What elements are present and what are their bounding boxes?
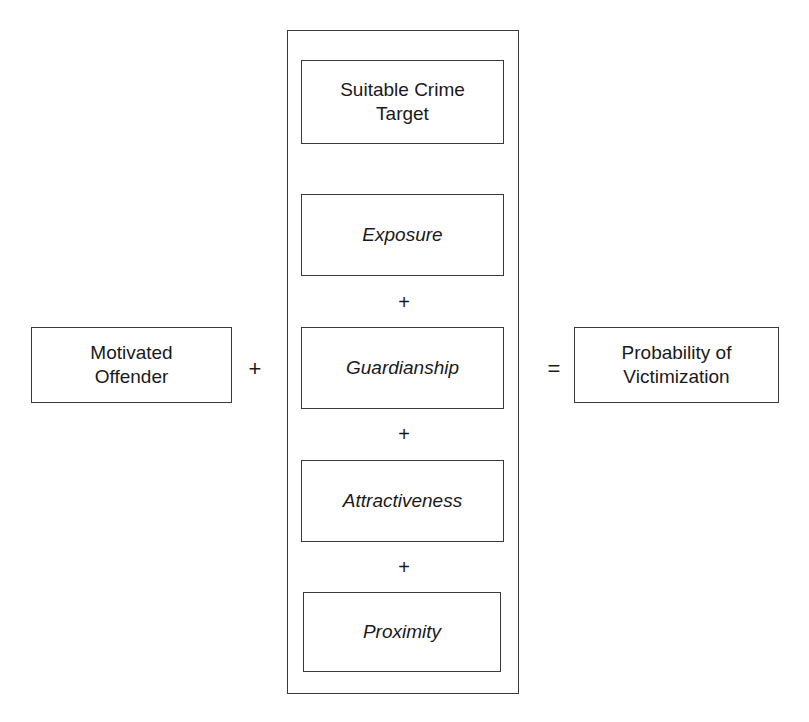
probability-of-victimization-label: Probability of Victimization	[616, 341, 738, 390]
proximity-box: Proximity	[303, 592, 501, 672]
plus-operator-exposure-guardianship: +	[392, 292, 416, 312]
equals-operator: =	[543, 358, 565, 380]
guardianship-box: Guardianship	[301, 327, 504, 409]
proximity-label: Proximity	[357, 620, 447, 644]
motivated-offender-box: Motivated Offender	[31, 327, 232, 403]
suitable-crime-target-box: Suitable Crime Target	[301, 60, 504, 144]
exposure-label: Exposure	[356, 223, 448, 247]
plus-operator-attractiveness-proximity: +	[392, 557, 416, 577]
exposure-box: Exposure	[301, 194, 504, 276]
motivated-offender-label: Motivated Offender	[84, 341, 178, 390]
suitable-crime-target-label: Suitable Crime Target	[334, 78, 471, 127]
diagram-canvas: Motivated Offender + Suitable Crime Targ…	[0, 0, 809, 722]
attractiveness-label: Attractiveness	[337, 489, 468, 513]
plus-operator-guardianship-attractiveness: +	[392, 424, 416, 444]
attractiveness-box: Attractiveness	[301, 460, 504, 542]
probability-of-victimization-box: Probability of Victimization	[574, 327, 779, 403]
guardianship-label: Guardianship	[340, 356, 465, 380]
plus-operator-outer: +	[244, 358, 266, 380]
